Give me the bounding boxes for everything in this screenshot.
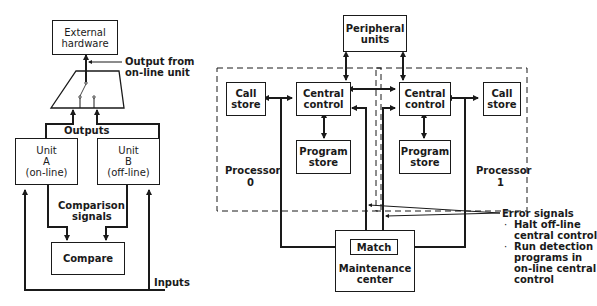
external-hardware-box: External hardware (52, 20, 118, 55)
program-store-1-box: Program store (399, 140, 451, 174)
central-control-0-box: Central control (296, 82, 351, 116)
program-store-0-box: Program store (296, 140, 351, 174)
central-control-1-line1: Central (404, 88, 445, 99)
processor-0-label-line2: 0 (247, 177, 254, 188)
error-bullet-1-line1: Halt off-line (514, 219, 581, 230)
unit-a-line2: A (43, 156, 50, 167)
call-store-1-line2: store (487, 99, 516, 110)
call-store-0-line1: Call (236, 88, 257, 99)
unit-b-box: Unit B (off-line) (97, 138, 160, 185)
match-box: Match (350, 239, 398, 255)
central-control-0-line2: control (304, 99, 344, 110)
program-store-0-line2: store (309, 157, 338, 168)
central-control-1-line2: control (405, 99, 445, 110)
unit-a-line3: (on-line) (26, 167, 68, 178)
external-hardware-label: External hardware (61, 27, 108, 49)
unit-b-line2: B (125, 156, 132, 167)
error-signals-title: Error signals (502, 208, 574, 219)
unit-a-line1: Unit (36, 145, 56, 156)
central-control-0-line1: Central (303, 88, 344, 99)
error-bullet-1-line2: central control (514, 230, 597, 241)
peripheral-units-line1: Peripheral (346, 23, 405, 34)
error-bullet-2-line3: on-line central (514, 263, 596, 274)
output-from-online-label: Output from on-line unit (125, 56, 195, 78)
call-store-1-line1: Call (492, 88, 513, 99)
unit-a-box: Unit A (on-line) (15, 138, 78, 185)
processor-0-label-line1: Processor (225, 165, 281, 176)
processor-1-label-line2: 1 (497, 177, 504, 188)
call-store-0-line2: store (231, 99, 260, 110)
call-store-1-box: Call store (483, 82, 521, 116)
comparison-signals-line2: signals (72, 211, 112, 222)
program-store-0-line1: Program (299, 146, 347, 157)
peripheral-units-line2: units (361, 34, 389, 45)
comparison-signals-line1: Comparison (58, 200, 125, 211)
program-store-1-line2: store (410, 157, 439, 168)
compare-label: Compare (63, 253, 113, 264)
maintenance-center-line1: Maintenance (339, 263, 412, 274)
compare-box: Compare (51, 242, 125, 275)
peripheral-units-box: Peripheral units (343, 15, 407, 52)
inputs-label: Inputs (154, 277, 190, 288)
processor-1-label-line1: Processor (476, 165, 532, 176)
outputs-label: Outputs (64, 125, 109, 136)
error-bullet-2-line1: Run detection (514, 241, 593, 252)
error-bullet-2-line2: programs in (514, 252, 582, 263)
call-store-0-box: Call store (226, 82, 266, 116)
bullet-dot-2: · (504, 241, 507, 252)
central-control-1-box: Central control (399, 82, 451, 116)
match-label: Match (357, 242, 392, 253)
bullet-dot-1: · (504, 219, 507, 230)
program-store-1-line1: Program (401, 146, 449, 157)
unit-b-line3: (off-line) (107, 167, 149, 178)
maintenance-center-line2: center (357, 274, 393, 285)
error-bullet-2-line4: control (514, 274, 554, 285)
unit-b-line1: Unit (118, 145, 138, 156)
switch-trapezoid (51, 71, 124, 108)
